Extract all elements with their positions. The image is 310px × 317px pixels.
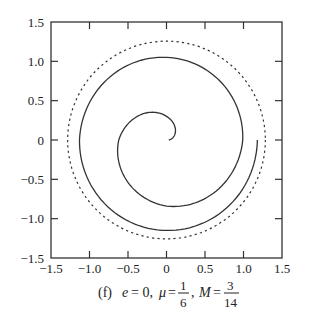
x-tick-label: 1.5	[274, 261, 290, 276]
y-tick-label: −1.5	[20, 251, 44, 266]
chart-plot: −1.5−1.0−0.500.51.01.51.51.00.50−0.5−1.0…	[0, 0, 310, 280]
caption-M-equals: =	[213, 285, 221, 300]
y-tick-label: 1.5	[28, 15, 44, 30]
y-tick-label: −1.0	[20, 211, 44, 226]
caption-mu-equals: =	[168, 285, 176, 300]
dashed-limit-circle	[68, 41, 266, 239]
x-tick-label: 0	[163, 261, 170, 276]
axis-tick-labels: −1.5−1.0−0.500.51.01.51.51.00.50−0.5−1.0…	[20, 15, 290, 277]
x-tick-label: −1.0	[78, 261, 102, 276]
caption-label: (f)	[98, 285, 112, 301]
caption-M-numerator: 3	[227, 278, 234, 293]
caption-mu-denominator: 6	[180, 295, 187, 310]
y-tick-label: −0.5	[20, 172, 44, 187]
x-tick-label: 0.5	[197, 261, 213, 276]
y-tick-label: 0.5	[28, 93, 44, 108]
caption-M-symbol: M	[198, 285, 212, 300]
y-tick-label: 0	[38, 133, 45, 148]
caption-mu-symbol: μ	[158, 285, 166, 300]
caption-e: e	[122, 285, 128, 300]
spiral-trajectory	[79, 57, 257, 230]
caption-mu-numerator: 1	[180, 278, 187, 293]
caption-comma: ,	[191, 285, 195, 300]
y-tick-label: 1.0	[28, 54, 44, 69]
x-tick-label: −0.5	[116, 261, 140, 276]
x-tick-label: 1.0	[235, 261, 251, 276]
figure-caption: (f) e = 0, μ = 1 6 , M = 3 14	[0, 276, 310, 316]
caption-e-value: = 0,	[131, 285, 153, 300]
caption-M-denominator: 14	[224, 295, 238, 310]
